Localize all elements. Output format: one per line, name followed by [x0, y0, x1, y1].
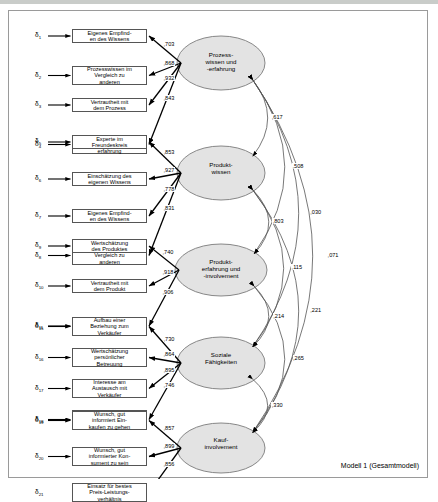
correlation-value: ,214	[273, 313, 285, 319]
latent-ellipses	[175, 36, 267, 473]
factor-loading-value: ,868	[163, 60, 175, 66]
error-term-label: δ2	[35, 71, 41, 80]
error-term-label: δ17	[35, 384, 44, 393]
error-term-label: δ7	[35, 211, 41, 220]
factor-loading-value: ,899	[163, 443, 175, 449]
factor-loading-value: ,740	[162, 249, 174, 255]
correlation-value: ,803	[272, 218, 284, 224]
factor-loading-value: ,703	[163, 41, 175, 47]
correlation-value: ,071	[327, 252, 339, 258]
error-term-label: δ21	[35, 488, 44, 497]
error-term-label: δ20	[35, 452, 44, 461]
error-term-label: δ16	[35, 353, 44, 362]
correlation-value: ,115	[291, 264, 302, 270]
error-term-label: δ9	[35, 241, 41, 250]
factor-loading-value: ,918	[162, 269, 174, 275]
error-term-label: δ15	[35, 322, 44, 331]
indicator-box: Experte im Freundeskreis	[72, 135, 147, 149]
correlation-value: ,030	[310, 209, 322, 215]
correlation-arcs	[253, 80, 313, 433]
indicator-box: Vertrautheit mit dem Prozess	[72, 98, 147, 112]
correlation-value: ,508	[292, 163, 304, 169]
delta-arrows	[48, 36, 71, 479]
factor-loading-value: ,864	[163, 351, 175, 357]
figure-caption: Modell 1 (Gesamtmodell)	[341, 462, 419, 469]
error-term-label: δ8	[35, 251, 41, 260]
top-band	[0, 0, 438, 4]
error-term-label: δ1	[35, 31, 41, 40]
factor-loading-value: ,843	[163, 95, 175, 101]
indicator-box: Vertrautheit mit dem Produkt	[72, 279, 147, 293]
factor-loading-value: ,906	[162, 289, 174, 295]
factor-loading-value: ,778	[163, 186, 175, 192]
error-term-label: δ6	[35, 174, 41, 183]
error-term-label: δ10	[35, 281, 44, 290]
factor-loading-value: ,853	[163, 149, 175, 155]
error-term-label: δ5	[35, 137, 41, 146]
correlation-value: ,221	[310, 307, 322, 313]
error-term-label: δ19	[35, 416, 44, 425]
loading-arrows	[149, 36, 181, 479]
indicator-box: Wunsch, gut informierter Kon- sument zu …	[72, 447, 147, 466]
factor-loading-value: ,746	[163, 382, 175, 388]
factor-loading-value: ,856	[163, 461, 175, 467]
indicator-box: Prozesswissen im Vergleich zu anderen	[72, 66, 147, 85]
error-term-label: δ3	[35, 100, 41, 109]
figure-frame: Eigenes Empfind- en des WissensProzesswi…	[8, 10, 428, 478]
factor-loading-value: ,932	[163, 75, 175, 81]
factor-loading-value: ,730	[163, 336, 175, 342]
indicator-box: Einschätzung des eigenen Wissens	[72, 172, 147, 186]
indicator-box: Eigenes Empfind- en des Wissens	[72, 29, 147, 43]
indicator-box: Wertschätzung des Produktes	[72, 239, 147, 253]
indicator-box: Einsatz für bestes Preis-Leistungs- verh…	[72, 483, 147, 502]
indicator-box: Aufbau einer Beziehung zum Verkäufer	[72, 317, 147, 336]
indicator-box: Eigenes Empfind- en des Wissens	[72, 209, 147, 223]
indicator-box: Interesse am Austausch mit Verkäufer	[72, 379, 147, 398]
indicator-box: Wunsch, gut informiert Ein- kaufen zu ge…	[72, 411, 147, 430]
correlation-value: ,330	[271, 402, 283, 408]
factor-loading-value: ,857	[163, 425, 175, 431]
correlation-value: ,265	[293, 355, 305, 361]
factor-loading-value: ,927	[163, 167, 175, 173]
factor-loading-value: ,895	[163, 367, 175, 373]
correlation-value: ,617	[271, 114, 283, 120]
factor-loading-value: ,831	[163, 205, 175, 211]
indicator-box: Wertschätzung persönlicher Betreuung	[72, 348, 147, 367]
